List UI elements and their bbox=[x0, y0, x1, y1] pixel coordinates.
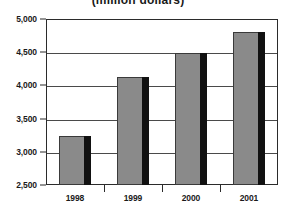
x-tick-label: 1998 bbox=[66, 193, 85, 203]
x-axis: 1998199920002001 bbox=[46, 193, 278, 209]
y-tick-label: 5,000 bbox=[16, 14, 37, 24]
y-tick-label: 3,500 bbox=[16, 114, 37, 124]
bar-2001 bbox=[233, 32, 265, 185]
y-tick-label: 2,500 bbox=[16, 180, 37, 190]
x-tick-label: 2000 bbox=[182, 193, 201, 203]
x-tick-label: 2001 bbox=[240, 193, 259, 203]
bar-shadow bbox=[258, 32, 265, 185]
x-tick-mark bbox=[104, 185, 105, 192]
bar-1998 bbox=[59, 136, 91, 185]
y-tick-label: 4,500 bbox=[16, 47, 37, 57]
bar-shadow bbox=[200, 53, 207, 185]
x-tick-mark bbox=[162, 185, 163, 192]
bar-chart-figure: (million dollars) 5,0004,5004,0003,5003,… bbox=[0, 0, 290, 217]
x-tick-label: 1999 bbox=[124, 193, 143, 203]
x-axis-ticks bbox=[46, 185, 278, 193]
bars-layer bbox=[46, 19, 278, 185]
bar-shadow bbox=[142, 77, 149, 185]
x-tick-mark bbox=[220, 185, 221, 192]
bar-2000 bbox=[175, 53, 207, 185]
y-tick-label: 4,000 bbox=[16, 80, 37, 90]
y-tick-label: 3,000 bbox=[16, 147, 37, 157]
bar-shadow bbox=[84, 136, 91, 185]
y-axis: 5,0004,5004,0003,5003,0002,500 bbox=[0, 0, 46, 217]
bar-1999 bbox=[117, 77, 149, 185]
